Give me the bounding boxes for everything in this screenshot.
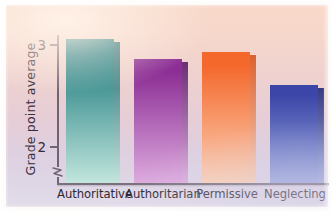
figure: Grade point average 3 2 AuthoritativeAut…: [0, 0, 332, 212]
x-label-authoritative: Authoritative: [57, 186, 125, 203]
bar-side-permissive: [250, 55, 256, 183]
bar-permissive[interactable]: [202, 52, 250, 183]
plot-panel: Grade point average 3 2 AuthoritativeAut…: [6, 5, 328, 207]
y-axis-title: Grade point average: [20, 35, 40, 183]
x-label-authoritarian: Authoritarian: [125, 186, 193, 203]
y-tick-label-3: 3: [30, 37, 46, 53]
x-axis-labels: AuthoritativeAuthoritarianPermissiveNegl…: [57, 186, 329, 206]
bar-authoritative[interactable]: [66, 39, 114, 183]
x-axis-line: [57, 183, 329, 185]
bar-authoritarian[interactable]: [134, 59, 182, 183]
x-label-neglecting: Neglecting: [261, 186, 329, 203]
bar-side-neglecting: [318, 88, 324, 183]
bar-neglecting[interactable]: [270, 85, 318, 183]
bar-side-authoritarian: [182, 62, 188, 183]
bar-side-authoritative: [114, 42, 120, 183]
y-tick-label-2: 2: [30, 139, 46, 155]
y-axis-title-text: Grade point average: [23, 43, 38, 176]
x-label-permissive: Permissive: [193, 186, 261, 203]
bar-group: [57, 5, 329, 183]
